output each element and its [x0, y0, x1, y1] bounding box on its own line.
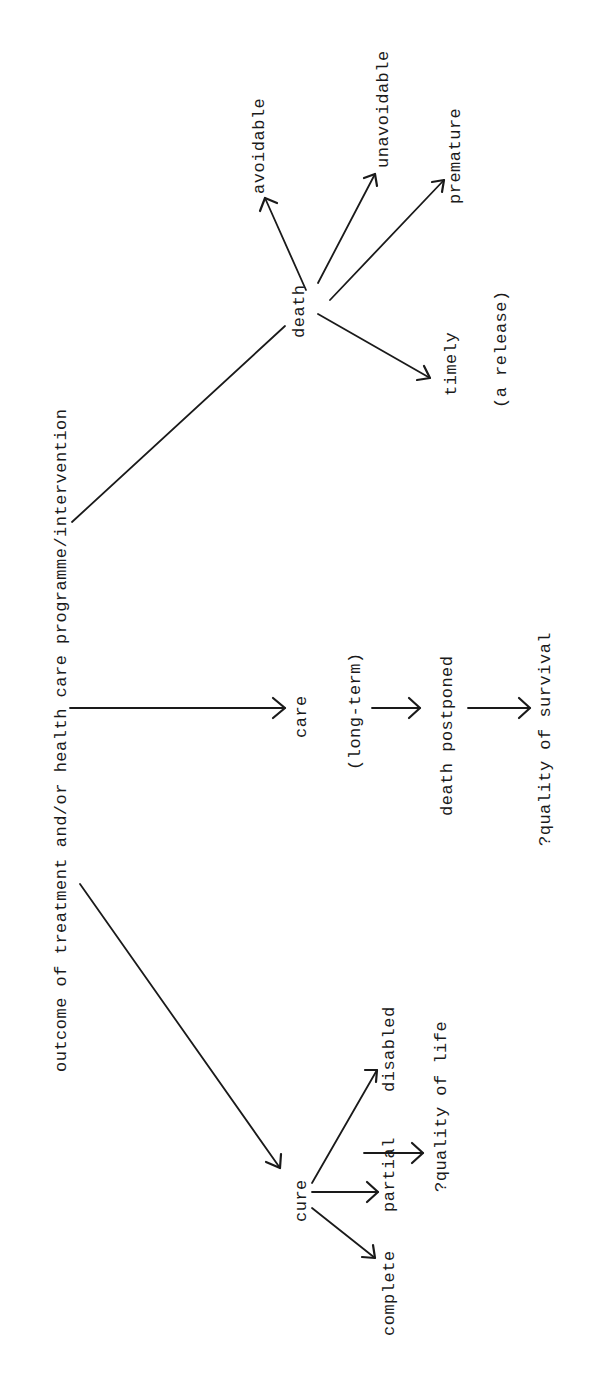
quality-of-life-label: ?quality of life — [432, 1021, 452, 1192]
premature-label: premature — [446, 108, 466, 204]
partial-label: partial — [380, 1137, 400, 1212]
death-label: death — [290, 284, 310, 338]
cure-to-complete-arrow — [312, 1208, 375, 1258]
timely-label: timely — [442, 332, 462, 396]
outcome-tree-diagram: outcome of treatment and/or health care … — [0, 0, 594, 1374]
quality-of-survival-label: ?quality of survival — [536, 632, 556, 846]
root-to-death-line — [72, 326, 285, 522]
root-to-cure-arrow — [80, 884, 280, 1168]
complete-label: complete — [380, 1250, 400, 1336]
root-label: outcome of treatment and/or health care … — [52, 408, 72, 1072]
release-note: (a release) — [492, 290, 512, 408]
connector-lines — [0, 0, 594, 1374]
death-to-timely-arrow — [318, 314, 430, 378]
avoidable-label: avoidable — [250, 98, 270, 194]
unavoidable-label: unavoidable — [374, 50, 394, 168]
death-to-avoidable-arrow — [265, 198, 306, 290]
arrowhead-timely-icon — [417, 366, 430, 380]
care-label: care — [292, 695, 312, 738]
disabled-label: disabled — [380, 1006, 400, 1092]
death-to-premature-arrow — [330, 180, 444, 300]
cure-label: cure — [292, 1179, 312, 1222]
long-term-label: (long-term) — [346, 652, 366, 770]
death-postponed-label: death postponed — [438, 655, 458, 816]
death-to-unavoidable-arrow — [318, 174, 375, 283]
cure-to-disabled-arrow — [312, 1070, 377, 1183]
